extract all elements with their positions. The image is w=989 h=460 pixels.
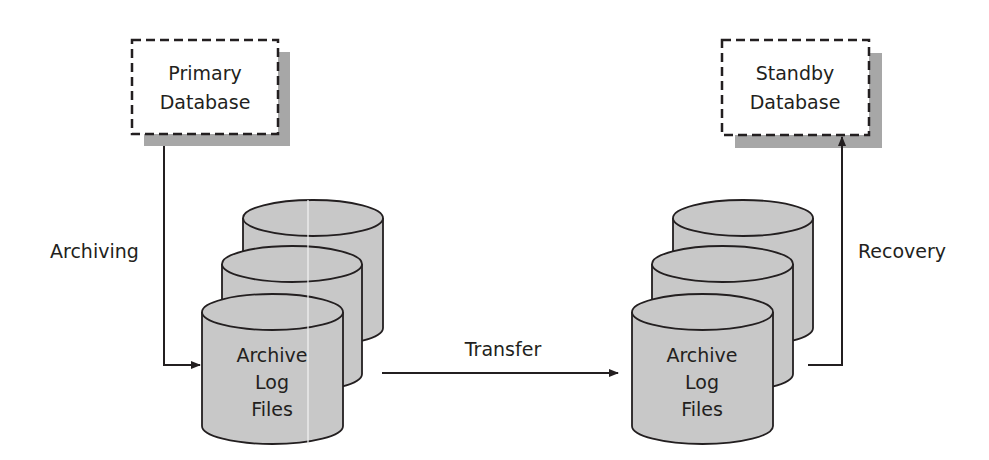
archive-right-label-line2: Log	[685, 371, 719, 393]
diagram-canvas: Primary Database Standby Database Archiv…	[0, 0, 989, 460]
recovery-edge: Recovery	[808, 137, 946, 365]
transfer-edge: Transfer	[382, 338, 618, 373]
standby-database-node: Standby Database	[722, 40, 882, 148]
standby-database-box	[722, 40, 869, 135]
archive-right-label-line1: Archive	[666, 344, 737, 366]
recovery-label: Recovery	[858, 240, 946, 262]
standby-database-label-line2: Database	[750, 91, 841, 113]
primary-database-label-line1: Primary	[168, 62, 241, 84]
archive-left-label-line2: Log	[255, 371, 289, 393]
primary-database-box	[132, 40, 278, 134]
primary-database-node: Primary Database	[132, 40, 290, 146]
archive-log-files-right: Archive Log Files	[632, 200, 813, 444]
archiving-edge: Archiving	[50, 146, 200, 365]
archiving-label: Archiving	[50, 240, 139, 262]
archiving-arrow	[164, 146, 200, 365]
archive-right-label-line3: Files	[681, 398, 723, 420]
transfer-label: Transfer	[464, 338, 542, 360]
primary-database-label-line2: Database	[160, 91, 251, 113]
cylinder-front-right	[632, 294, 773, 444]
cylinder-front-left	[202, 294, 343, 444]
standby-database-label-line1: Standby	[756, 62, 835, 84]
archive-left-label-line3: Files	[251, 398, 293, 420]
archive-log-files-left: Archive Log Files	[202, 200, 383, 445]
archive-left-label-line1: Archive	[236, 344, 307, 366]
